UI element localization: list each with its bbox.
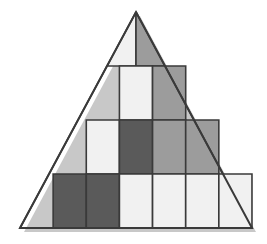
triangle-cell-row3-cell-2 — [119, 120, 152, 174]
triangle-cell-row3-cell-3 — [153, 120, 186, 174]
triangle-cell-row4-cell-5 — [186, 174, 219, 228]
subdivided-triangle-figure — [0, 0, 267, 244]
triangle-cell-row3-cell-4 — [186, 120, 219, 174]
triangle-cell-row3-cell-1 — [86, 120, 119, 174]
triangle-cell-layer — [20, 12, 252, 228]
triangle-cell-row4-cell-4 — [153, 174, 186, 228]
triangle-cell-row2-cell-1 — [119, 66, 152, 120]
triangle-cell-row4-cell-1 — [53, 174, 86, 228]
figure-canvas — [0, 0, 267, 244]
triangle-cell-row4-cell-2 — [86, 174, 119, 228]
triangle-cell-row4-cell-3 — [119, 174, 152, 228]
